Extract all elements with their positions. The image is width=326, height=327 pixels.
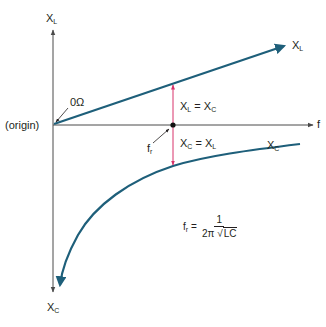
formula-numerator: 1	[214, 214, 224, 227]
equation-xc-equals-xl: XC = XL	[180, 138, 216, 150]
zero-ohm-label: 0Ω	[70, 97, 84, 108]
resonance-point	[170, 122, 175, 127]
x-axis-label: f	[317, 119, 320, 130]
sqrt-symbol: √	[217, 228, 223, 239]
fr-pointer-label: fr	[147, 143, 152, 155]
origin-label: (origin)	[5, 120, 39, 131]
resonance-formula-fraction: 1 2π √LC	[202, 214, 237, 239]
fr-pointer-arrow	[153, 129, 169, 143]
resonance-formula-lhs: fr =	[183, 222, 200, 233]
equation-xl-equals-xc: XL = XC	[180, 101, 216, 113]
reactance-diagram-canvas	[0, 0, 326, 327]
xc-curve-label: XC	[267, 140, 279, 152]
formula-denominator: 2π √LC	[202, 227, 237, 239]
xl-curve-label: XL	[292, 40, 303, 52]
xc-curve	[60, 144, 300, 285]
y-axis-top-label: XL	[46, 13, 57, 25]
xl-line	[54, 46, 284, 124]
y-axis-bottom-label: XC	[47, 302, 59, 314]
